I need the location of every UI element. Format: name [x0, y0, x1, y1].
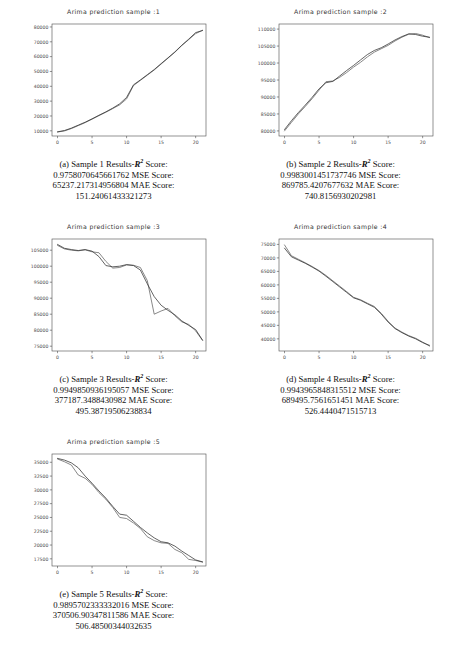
panel-c-r2-label: Score: — [145, 374, 167, 384]
panel-e-mse-value: 370506.90347811586 — [53, 610, 129, 620]
svg-text:45000: 45000 — [260, 323, 275, 328]
panel-c-mae-label: MAE Score: — [129, 395, 173, 405]
panel-a-r2-value: 0.9758070645661762 — [53, 170, 129, 180]
panel-d-mae-value: 526.4440471515713 — [305, 406, 377, 416]
panel-c-title: Arima prediction sample :3 — [67, 223, 160, 230]
svg-text:85000: 85000 — [260, 112, 275, 117]
svg-text:0: 0 — [56, 140, 59, 145]
svg-text:90000: 90000 — [33, 296, 48, 301]
panel-a-prefix: Sample 1 Results- — [71, 159, 134, 169]
panel-c-mse-label: MSE Score: — [131, 385, 173, 395]
svg-text:75000: 75000 — [260, 242, 275, 247]
svg-text:17500: 17500 — [33, 557, 48, 562]
panel-d-prefix: Sample 4 Results- — [298, 374, 361, 384]
panel-d-caption: (d) Sample 4 Results-R2 Score: 0.9943965… — [251, 373, 431, 417]
panel-b: Arima prediction sample :2 8000085000900… — [227, 0, 454, 215]
svg-text:15: 15 — [158, 140, 164, 145]
svg-text:20: 20 — [192, 570, 198, 575]
panel-b-mae-value: 740.8156930202981 — [305, 191, 377, 201]
svg-text:30000: 30000 — [33, 488, 48, 493]
svg-text:70000: 70000 — [260, 256, 275, 261]
panel-c-mse-value: 377187.3488430982 — [55, 395, 127, 405]
panel-b-mse-value: 869785.4207677632 — [282, 180, 354, 190]
panel-a-title: Arima prediction sample :1 — [67, 8, 160, 15]
svg-text:15: 15 — [385, 355, 391, 360]
svg-text:50000: 50000 — [260, 310, 275, 315]
svg-text:80000: 80000 — [33, 25, 48, 30]
panel-c-values: 0.9949850936195057 MSE Score: 377187.348… — [24, 385, 204, 417]
r-squared-symbol: R2 — [362, 159, 371, 169]
panel-a-letter: (a) — [59, 159, 69, 169]
panel-e-r2-value: 0.9895702333332016 — [53, 600, 129, 610]
svg-text:55000: 55000 — [260, 296, 275, 301]
svg-text:10: 10 — [123, 570, 129, 575]
svg-text:50000: 50000 — [33, 69, 48, 74]
svg-text:27500: 27500 — [33, 501, 48, 506]
panel-e-values: 0.9895702333332016 MSE Score: 370506.903… — [24, 600, 204, 632]
svg-text:5: 5 — [90, 140, 93, 145]
panel-c: Arima prediction sample :3 7500080000850… — [0, 215, 227, 430]
panel-b-prefix: Sample 2 Results- — [298, 159, 361, 169]
panel-d-r2-label: Score: — [373, 374, 395, 384]
panel-b-r2-value: 0.9983001451737746 — [280, 170, 356, 180]
svg-text:5: 5 — [317, 355, 320, 360]
svg-text:105000: 105000 — [30, 248, 48, 253]
figure-grid: Arima prediction sample :1 1000020000300… — [0, 0, 454, 645]
panel-a-svg: 1000020000300004000050000600007000080000… — [16, 18, 212, 152]
panel-a-values: 0.9758070645661762 MSE Score: 65237.2173… — [24, 170, 204, 202]
panel-e-plot: 1750020000225002500027500300003250035000… — [16, 448, 212, 582]
panel-e-svg: 1750020000225002500027500300003250035000… — [16, 448, 212, 582]
svg-text:0: 0 — [56, 355, 59, 360]
panel-d-mse-label: MSE Score: — [358, 385, 400, 395]
svg-text:25000: 25000 — [33, 515, 48, 520]
panel-d: Arima prediction sample :4 4000045000500… — [227, 215, 454, 430]
panel-c-prefix: Sample 3 Results- — [71, 374, 134, 384]
panel-a-mse-label: MSE Score: — [131, 170, 173, 180]
panel-d-mse-value: 689495.7561651451 — [282, 395, 354, 405]
panel-e-caption: (e) Sample 5 Results-R2 Score: 0.9895702… — [24, 588, 204, 632]
panel-b-caption: (b) Sample 2 Results-R2 Score: 0.9983001… — [251, 158, 431, 202]
panel-a-plot: 1000020000300004000050000600007000080000… — [16, 18, 212, 152]
svg-text:15: 15 — [158, 570, 164, 575]
svg-text:40000: 40000 — [260, 337, 275, 342]
svg-text:90000: 90000 — [260, 95, 275, 100]
svg-text:0: 0 — [283, 140, 286, 145]
r-squared-symbol: R2 — [134, 159, 143, 169]
panel-c-plot: 7500080000850009000095000100000105000051… — [16, 233, 212, 367]
svg-text:65000: 65000 — [260, 269, 275, 274]
svg-text:75000: 75000 — [33, 344, 48, 349]
svg-text:20000: 20000 — [33, 543, 48, 548]
svg-text:15: 15 — [158, 355, 164, 360]
svg-text:5: 5 — [90, 355, 93, 360]
panel-e-letter: (e) — [59, 589, 69, 599]
r-squared-symbol: R2 — [134, 374, 143, 384]
panel-d-values: 0.9943965848315512 MSE Score: 689495.756… — [251, 385, 431, 417]
svg-text:95000: 95000 — [260, 78, 275, 83]
panel-b-title: Arima prediction sample :2 — [294, 8, 387, 15]
panel-a: Arima prediction sample :1 1000020000300… — [0, 0, 227, 215]
panel-b-r2-label: Score: — [373, 159, 395, 169]
svg-text:105000: 105000 — [257, 44, 275, 49]
panel-e-mse-label: MSE Score: — [131, 600, 173, 610]
svg-text:0: 0 — [283, 355, 286, 360]
panel-b-svg: 8000085000900009500010000010500011000005… — [243, 18, 439, 152]
panel-a-mae-label: MAE Score: — [131, 180, 175, 190]
svg-text:30000: 30000 — [33, 99, 48, 104]
panel-e: Arima prediction sample :5 1750020000225… — [0, 430, 227, 645]
panel-e-prefix: Sample 5 Results- — [71, 589, 134, 599]
svg-text:60000: 60000 — [260, 283, 275, 288]
svg-text:60000: 60000 — [33, 54, 48, 59]
panel-c-r2-value: 0.9949850936195057 — [53, 385, 129, 395]
panel-a-r2-label: Score: — [145, 159, 167, 169]
panel-e-mae-value: 506.48500344032635 — [75, 621, 151, 631]
svg-text:0: 0 — [56, 570, 59, 575]
panel-c-mae-value: 495.38719506238834 — [75, 406, 151, 416]
svg-text:20: 20 — [192, 355, 198, 360]
r-squared-symbol: R2 — [362, 374, 371, 384]
panel-e-r2-label: Score: — [145, 589, 167, 599]
panel-b-letter: (b) — [286, 159, 296, 169]
svg-text:5: 5 — [90, 570, 93, 575]
panel-a-mae-value: 151.24061433321273 — [75, 191, 151, 201]
panel-d-r2-value: 0.9943965848315512 — [280, 385, 356, 395]
panel-d-svg: 4000045000500005500060000650007000075000… — [243, 233, 439, 367]
